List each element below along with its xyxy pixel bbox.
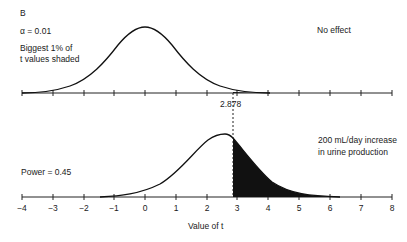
- x-tick: 5: [297, 203, 302, 213]
- x-tick: 1: [174, 203, 179, 213]
- chart-canvas: [0, 0, 407, 242]
- x-tick: −1: [109, 203, 119, 213]
- bottom-title-line2: in urine production: [318, 147, 388, 158]
- x-tick: 7: [359, 203, 364, 213]
- shade-note-line1: Biggest 1% of: [20, 43, 72, 54]
- x-tick: 3: [235, 203, 240, 213]
- top-axis: [22, 90, 392, 96]
- alpha-label: α = 0.01: [20, 26, 51, 37]
- power-label: Power = 0.45: [21, 167, 71, 178]
- x-tick: −3: [48, 203, 58, 213]
- alternative-distribution-curve: [100, 134, 340, 197]
- top-panel-title: No effect: [317, 25, 351, 36]
- x-tick: 4: [266, 203, 271, 213]
- shade-note-line2: t values shaded: [20, 54, 80, 65]
- x-tick: −2: [79, 203, 89, 213]
- panel-label: B: [20, 8, 26, 19]
- x-tick: −4: [17, 203, 27, 213]
- x-axis-label: Value of t: [188, 221, 223, 232]
- x-tick: 2: [205, 203, 210, 213]
- x-tick: 6: [328, 203, 333, 213]
- x-tick: 0: [143, 203, 148, 213]
- critical-value-label: 2.878: [220, 99, 241, 110]
- bottom-title-line1: 200 mL/day increase: [318, 135, 397, 146]
- x-tick: 8: [390, 203, 395, 213]
